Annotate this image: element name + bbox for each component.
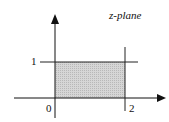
y-tick-label: 1 (31, 56, 37, 67)
shaded-region (55, 62, 125, 98)
plane-title: z-plane (109, 10, 141, 21)
z-plane-diagram: z-plane 1 0 2 (0, 0, 169, 122)
x-tick-label: 2 (129, 103, 135, 114)
x-axis-arrow-icon (157, 94, 166, 102)
axes-drawing (0, 0, 169, 122)
origin-label: 0 (46, 103, 52, 114)
y-axis-arrow-icon (51, 14, 59, 24)
